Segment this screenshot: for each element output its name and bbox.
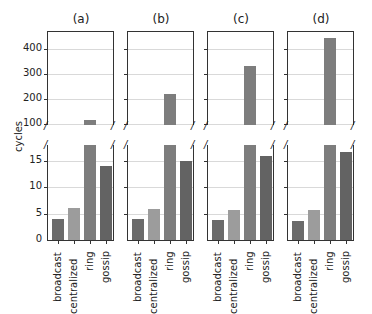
x-tick-label: ring	[84, 251, 95, 271]
axis-break-marker: /	[191, 140, 194, 150]
bar-gossip	[180, 161, 192, 241]
axis-break-marker: /	[191, 121, 194, 131]
x-tick	[250, 241, 251, 244]
x-tick	[106, 241, 107, 244]
x-tick	[170, 241, 171, 244]
axis-break-marker: /	[44, 140, 47, 150]
x-tick-label: gossip	[180, 251, 191, 283]
x-tick	[74, 241, 75, 244]
x-tick	[90, 241, 91, 244]
axis-break-marker: /	[204, 121, 207, 131]
axis-break-marker: /	[124, 121, 127, 131]
panel-title: (a)	[47, 12, 115, 26]
x-tick-label: ring	[164, 251, 175, 271]
axis-break-marker: /	[284, 140, 287, 150]
x-tick	[346, 241, 347, 244]
x-tick	[186, 241, 187, 244]
axis-break-marker: /	[124, 140, 127, 150]
y-tick-label-top: 200	[12, 92, 42, 103]
x-tick	[58, 241, 59, 244]
bar-centralized	[228, 210, 240, 240]
axis-break-marker: /	[44, 121, 47, 131]
x-tick-label: broadcast	[292, 252, 303, 302]
bar-gossip	[260, 156, 272, 240]
bar-centralized	[68, 208, 80, 240]
y-tick-label-bottom: 5	[12, 207, 42, 218]
axis-break-marker: /	[204, 140, 207, 150]
bar-broadcast	[212, 220, 224, 240]
panel-title: (c)	[207, 12, 275, 26]
x-tick-label: gossip	[260, 251, 271, 283]
bar-ring-upper	[324, 38, 336, 125]
upper-axes-frame	[47, 31, 114, 125]
x-tick	[234, 241, 235, 244]
y-tick-label-top: 300	[12, 67, 42, 78]
x-tick	[314, 241, 315, 244]
x-tick	[266, 241, 267, 244]
bar-broadcast	[132, 219, 144, 240]
upper-axes-frame	[127, 31, 194, 125]
bar-centralized	[148, 209, 160, 240]
x-tick-label: centralized	[228, 259, 239, 314]
panel-title: (b)	[127, 12, 195, 26]
x-tick-label: centralized	[308, 259, 319, 314]
bar-ring	[324, 145, 336, 240]
upper-axes-frame	[287, 31, 354, 125]
x-tick-label: ring	[324, 251, 335, 271]
x-tick-label: gossip	[100, 251, 111, 283]
upper-axes-frame	[207, 31, 274, 125]
bar-gossip	[100, 166, 112, 240]
bar-ring-upper	[164, 94, 176, 126]
x-tick	[330, 241, 331, 244]
bar-broadcast	[292, 221, 304, 240]
x-tick	[298, 241, 299, 244]
x-tick	[154, 241, 155, 244]
x-tick-label: ring	[244, 251, 255, 271]
axis-break-marker: /	[284, 121, 287, 131]
y-tick-label-bottom: 0	[12, 233, 42, 244]
y-tick-label-bottom: 10	[12, 180, 42, 191]
bar-gossip	[340, 152, 352, 240]
x-tick	[138, 241, 139, 244]
bar-ring-upper	[244, 66, 256, 125]
y-tick-label-top: 400	[12, 42, 42, 53]
panel-title: (d)	[287, 12, 355, 26]
axis-break-marker: /	[351, 121, 354, 131]
x-tick-label: centralized	[148, 259, 159, 314]
axis-break-marker: /	[111, 140, 114, 150]
bar-ring-upper	[84, 120, 96, 125]
axis-break-marker: /	[351, 140, 354, 150]
axis-break-marker: /	[111, 121, 114, 131]
bar-ring	[84, 145, 96, 240]
x-tick-label: broadcast	[212, 252, 223, 302]
bar-centralized	[308, 210, 320, 240]
bar-ring	[164, 145, 176, 240]
x-tick-label: broadcast	[132, 252, 143, 302]
axis-break-marker: /	[271, 121, 274, 131]
x-tick	[218, 241, 219, 244]
x-tick-label: centralized	[68, 259, 79, 314]
x-tick-label: gossip	[340, 251, 351, 283]
y-axis-label: cycles	[13, 121, 24, 152]
bar-broadcast	[52, 219, 64, 240]
axis-break-marker: /	[271, 140, 274, 150]
x-tick-label: broadcast	[52, 252, 63, 302]
bar-ring	[244, 145, 256, 240]
y-tick-label-bottom: 15	[12, 154, 42, 165]
